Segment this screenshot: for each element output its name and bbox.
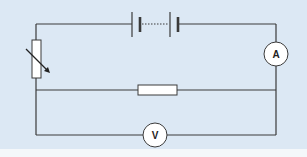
circuit-diagram: A V [0, 0, 307, 157]
voltmeter-label: V [152, 130, 159, 141]
variable-resistor-icon [26, 40, 50, 78]
battery-icon [132, 12, 178, 37]
ammeter-icon: A [264, 42, 288, 66]
ammeter-label: A [272, 49, 279, 60]
voltmeter-icon: V [143, 123, 167, 147]
resistor-icon [138, 85, 177, 95]
